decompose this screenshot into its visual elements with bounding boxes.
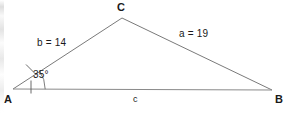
triangle-diagram: A B C a = 19 b = 14 c 35°: [0, 0, 291, 113]
edge-side-c: [13, 89, 272, 90]
triangle-edges: [13, 18, 272, 90]
side-label-b: b = 14: [37, 38, 66, 48]
edge-side-b: [13, 18, 122, 89]
side-label-c: c: [133, 95, 138, 104]
angle-label-A: 35°: [33, 70, 49, 80]
vertex-label-C: C: [117, 2, 125, 13]
triangle-svg: [0, 0, 291, 113]
side-label-a: a = 19: [179, 29, 208, 39]
vertex-label-A: A: [4, 94, 12, 105]
vertex-label-B: B: [275, 94, 283, 105]
